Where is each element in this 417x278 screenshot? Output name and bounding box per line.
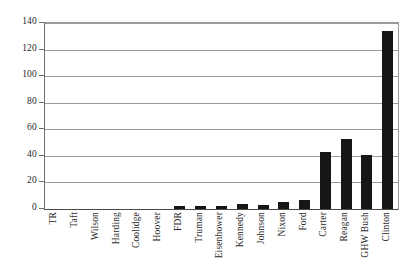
bar [361,155,372,209]
x-tick: Reagan [335,210,356,278]
x-tick-label: Wilson [91,212,101,240]
x-tick: Ford [293,210,314,278]
bar [299,200,310,209]
x-tick-label: Truman [195,212,205,243]
x-tick: Kennedy [231,210,252,278]
x-tick-label: Johnson [257,212,267,244]
gridline [45,103,398,104]
x-tick: FDR [169,210,190,278]
x-tick: Nixon [272,210,293,278]
bar [341,139,352,209]
bar [216,206,227,209]
x-tick: Hoover [148,210,169,278]
y-tick-label: 80 [3,97,37,107]
bar [278,202,289,209]
bar [382,31,393,209]
y-tick-label: 140 [3,17,37,27]
x-tick: Eisenhower [210,210,231,278]
x-tick: TR [44,210,65,278]
x-tick: GHW Bush [355,210,376,278]
gridline [45,76,398,77]
gridline [45,50,398,51]
x-tick-label: Harding [112,212,122,244]
y-axis: 020406080100120140 [0,0,37,278]
y-tick-label: 20 [3,176,37,186]
bar [174,206,185,209]
x-tick: Carter [314,210,335,278]
x-tick: Wilson [86,210,107,278]
gridline [45,23,398,24]
x-tick-label: Ford [299,212,309,231]
x-tick: Clinton [376,210,397,278]
y-tick-label: 0 [3,203,37,213]
x-tick: Taft [65,210,86,278]
x-tick: Truman [189,210,210,278]
x-tick-label: Carter [320,212,330,237]
x-tick-label: Nixon [278,212,288,237]
y-tick-label: 40 [3,150,37,160]
x-tick: Coolidge [127,210,148,278]
x-tick: Harding [106,210,127,278]
x-tick-label: Eisenhower [216,212,226,258]
x-tick-label: FDR [174,212,184,231]
plot-area [44,22,399,210]
bar [320,152,331,209]
y-tick-label: 60 [3,123,37,133]
x-tick-label: TR [50,212,60,224]
x-tick-label: GHW Bush [361,212,371,258]
x-tick-label: Kennedy [237,212,247,247]
gridline [45,129,398,130]
x-axis: TRTaftWilsonHardingCoolidgeHooverFDRTrum… [44,210,397,278]
y-tick-label: 100 [3,70,37,80]
bar [258,205,269,209]
x-tick-label: Taft [70,212,80,228]
x-tick-label: Clinton [382,212,392,242]
bar [195,206,206,209]
bar-chart-figure: 020406080100120140 TRTaftWilsonHardingCo… [0,0,417,278]
x-tick-label: Hoover [153,212,163,241]
x-tick-label: Reagan [340,212,350,241]
bar [237,204,248,209]
x-tick: Johnson [252,210,273,278]
y-tick-label: 120 [3,44,37,54]
x-tick-label: Coolidge [133,212,143,248]
